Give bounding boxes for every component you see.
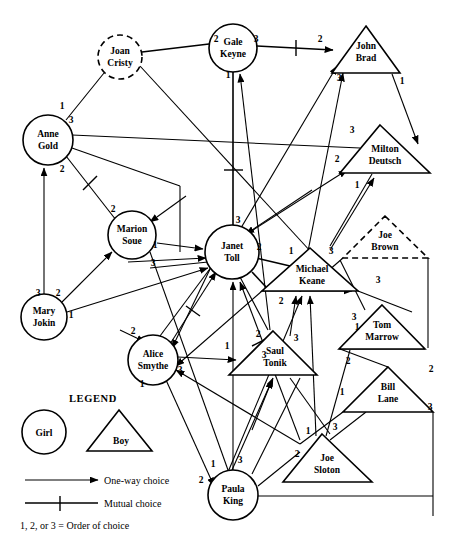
sociogram-diagram: Joan Cristy Gale Keyne John Brad Anne Go… bbox=[0, 0, 455, 546]
order-of-choice-label: 2 bbox=[199, 475, 204, 485]
node-john-brad[interactable]: John Brad bbox=[332, 26, 400, 73]
node-label-joebrown-line2: Brown bbox=[371, 242, 399, 252]
edge-milton-michael bbox=[330, 174, 372, 246]
node-label-joesloton-line2: Sloton bbox=[314, 465, 341, 475]
order-of-choice-label: 1 bbox=[225, 341, 230, 351]
node-bill-lane[interactable]: Bill Lane bbox=[343, 367, 433, 412]
edge-joes-alice bbox=[176, 370, 300, 444]
node-label-milton-line2: Deutsch bbox=[369, 156, 402, 166]
node-label-paula-line2: King bbox=[223, 496, 243, 506]
legend: LEGEND Girl Boy One-way choice Mutual ch… bbox=[20, 393, 170, 531]
node-michael-keane[interactable]: Michael Keane bbox=[262, 248, 358, 291]
order-of-choice-label: 3 bbox=[236, 215, 241, 225]
legend-boy-label: Boy bbox=[113, 436, 129, 446]
edge-alice-paula bbox=[166, 380, 214, 486]
node-paula-king[interactable]: Paula King bbox=[208, 470, 258, 520]
order-of-choice-label: 3 bbox=[294, 333, 299, 343]
order-of-choice-label: 2 bbox=[111, 204, 116, 214]
order-of-choice-label: 2 bbox=[429, 364, 434, 374]
order-of-choice-label: 1 bbox=[340, 387, 345, 397]
node-saul-tonik[interactable]: Saul Tonik bbox=[229, 331, 317, 375]
order-of-choice-label: 2 bbox=[256, 329, 261, 339]
order-of-choice-label: 1 bbox=[140, 379, 145, 389]
order-of-choice-label: 3 bbox=[329, 246, 334, 256]
order-of-choice-label: 1 bbox=[60, 101, 65, 111]
edge-joan-anne bbox=[66, 73, 104, 120]
edge-saul-inbound-bottom bbox=[252, 380, 272, 430]
node-label-saul-line1: Saul bbox=[266, 346, 284, 356]
order-of-choice-label: 3 bbox=[350, 125, 355, 135]
node-label-janet-line1: Janet bbox=[221, 241, 244, 251]
edge-john-milton bbox=[392, 74, 418, 144]
node-label-alice-line1: Alice bbox=[143, 349, 164, 359]
node-label-mary-line1: Mary bbox=[33, 306, 56, 316]
node-label-michael-line1: Michael bbox=[296, 264, 329, 274]
edge-anne-milton bbox=[72, 135, 360, 148]
node-label-john-line2: Brad bbox=[356, 53, 377, 63]
edge-alice-janet bbox=[170, 272, 216, 344]
mutual-tick-anne-marion bbox=[83, 176, 97, 190]
order-of-choice-label: 2 bbox=[346, 356, 351, 366]
edge-gale-john bbox=[257, 46, 333, 50]
node-joan-cristy[interactable]: Joan Cristy bbox=[98, 35, 142, 79]
order-of-choice-label: 3 bbox=[254, 34, 259, 44]
order-of-choice-label: 2 bbox=[279, 296, 284, 306]
order-of-choice-label: 1 bbox=[289, 246, 294, 256]
edge-lowleft-arrow bbox=[128, 258, 206, 262]
order-of-choice-label: 3 bbox=[333, 422, 338, 432]
node-label-john-line1: John bbox=[356, 41, 377, 51]
order-of-choice-label: 1 bbox=[226, 70, 231, 80]
node-label-milton-line1: Milton bbox=[371, 144, 399, 154]
node-label-bill-line1: Bill bbox=[381, 382, 396, 392]
order-of-choice-label: 3 bbox=[151, 258, 156, 268]
order-of-choice-label: 1 bbox=[211, 459, 216, 469]
edge-saul-michael bbox=[290, 296, 296, 336]
edge-janetfan-lowleft bbox=[150, 262, 208, 268]
edge-anne-marion bbox=[66, 156, 116, 220]
node-label-joan-line1: Joan bbox=[110, 46, 130, 56]
legend-order-note: 1, 2, or 3 = Order of choice bbox=[20, 520, 130, 531]
node-label-tom-line1: Tom bbox=[373, 320, 391, 330]
node-gale-keyne[interactable]: Gale Keyne bbox=[209, 24, 257, 72]
edge-alice-saul bbox=[178, 357, 236, 360]
sociogram-canvas: Joan Cristy Gale Keyne John Brad Anne Go… bbox=[0, 0, 455, 546]
order-of-choice-label: 3 bbox=[337, 73, 342, 83]
node-joe-brown[interactable]: Joe Brown bbox=[343, 216, 428, 258]
order-of-choice-label: 1 bbox=[355, 180, 360, 190]
order-of-choice-label: 3 bbox=[352, 312, 357, 322]
node-janet-toll[interactable]: Janet Toll bbox=[205, 225, 259, 279]
order-of-choice-label: 2 bbox=[56, 288, 61, 298]
order-of-choice-label: 2 bbox=[335, 154, 340, 164]
node-label-janet-line2: Toll bbox=[224, 253, 240, 263]
order-of-choice-label: 1 bbox=[306, 426, 311, 436]
node-label-joebrown-line1: Joe bbox=[378, 230, 392, 240]
node-label-anne-line1: Anne bbox=[37, 129, 59, 139]
order-of-choice-label: 1 bbox=[400, 76, 405, 86]
order-of-choice-label: 3 bbox=[178, 365, 183, 375]
legend-heading: LEGEND bbox=[69, 393, 117, 404]
node-label-joesloton-line1: Joe bbox=[320, 453, 334, 463]
edge-mary-marion bbox=[62, 252, 112, 302]
edge-joan-gale bbox=[142, 44, 209, 52]
node-label-bill-line2: Lane bbox=[378, 394, 399, 404]
order-of-choice-label: 2 bbox=[60, 164, 65, 174]
node-mary-jokin[interactable]: Mary Jokin bbox=[21, 294, 67, 340]
order-of-choice-label: 3 bbox=[428, 402, 433, 412]
node-marion-soue[interactable]: Marion Soue bbox=[108, 211, 156, 259]
edge-marion-inbound bbox=[150, 196, 186, 222]
edge-saul-paula bbox=[252, 378, 300, 474]
order-of-choice-label: 3 bbox=[376, 275, 381, 285]
order-of-choice-label: 1 bbox=[69, 310, 74, 320]
edge-joes-michael bbox=[310, 296, 316, 436]
node-label-anne-line2: Gold bbox=[38, 141, 59, 151]
edge-janet-michael bbox=[256, 258, 290, 266]
edge-mary-janet bbox=[67, 268, 208, 312]
legend-girl-label: Girl bbox=[36, 428, 53, 438]
node-label-paula-line1: Paula bbox=[221, 484, 244, 494]
order-of-choice-label: 3 bbox=[36, 288, 41, 298]
order-of-choice-label: 2 bbox=[257, 242, 262, 252]
node-anne-gold[interactable]: Anne Gold bbox=[23, 115, 73, 165]
legend-mutual-label: Mutual choice bbox=[104, 498, 162, 509]
node-label-gale-line2: Keyne bbox=[220, 49, 246, 59]
node-alice-smythe[interactable]: Alice Smythe bbox=[128, 335, 178, 385]
